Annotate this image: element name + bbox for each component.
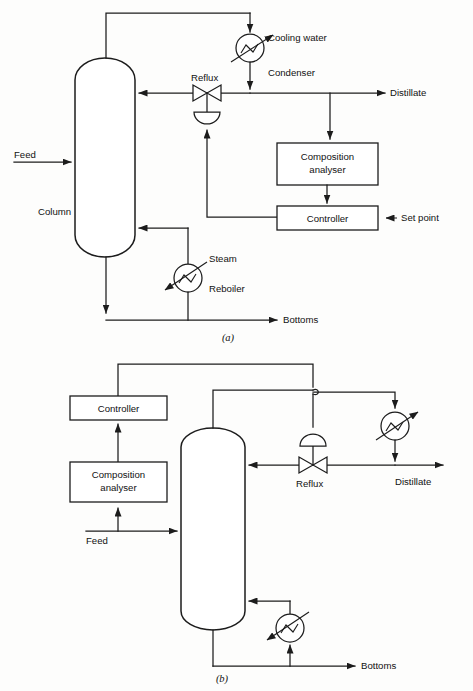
column-vessel-a — [75, 58, 135, 257]
controller-label-a: Controller — [307, 213, 349, 224]
bottoms-label-a: Bottoms — [283, 314, 318, 325]
composition-analyser-label-line2-a: analyser — [309, 164, 346, 175]
figure-sheet: Composition analyser Controller Feed Col… — [0, 0, 473, 691]
cooling-water-label-a: Cooling water — [268, 32, 327, 43]
distillate-label-b: Distillate — [395, 476, 431, 487]
reflux-valve-actuator-a — [194, 112, 220, 124]
reflux-valve-actuator-b — [300, 434, 326, 446]
reflux-label-a: Reflux — [191, 72, 218, 83]
steam-label-a: Steam — [209, 253, 237, 264]
controller-to-valve-signal-a — [207, 130, 277, 217]
panel-a-diagram: Composition analyser Controller Feed Col… — [0, 0, 473, 691]
overhead-vapour-line-b — [213, 390, 313, 428]
reflux-label-b: Reflux — [296, 478, 323, 489]
overhead-to-condenser-b — [313, 392, 395, 408]
condenser-b — [381, 412, 409, 440]
column-label-a: Column — [38, 206, 71, 217]
distillate-label-a: Distillate — [390, 87, 426, 98]
bottoms-label-b: Bottoms — [361, 660, 396, 671]
reboiler-label-a: Reboiler — [209, 283, 246, 294]
feed-label-b: Feed — [86, 535, 108, 546]
composition-analyser-label-line2-b: analyser — [100, 482, 137, 493]
condenser-a — [236, 34, 264, 62]
feed-label-a: Feed — [14, 149, 36, 160]
set-point-label-a: Set point — [401, 212, 439, 223]
panel-caption-b: (b) — [216, 673, 229, 685]
controller-output-line-b — [118, 364, 313, 396]
panel-caption-a: (a) — [222, 332, 235, 344]
composition-analyser-label-line1-b: Composition — [92, 469, 145, 480]
column-vessel-b — [181, 428, 245, 630]
condenser-label-a: Condenser — [268, 67, 316, 78]
composition-analyser-label-line1-a: Composition — [301, 151, 354, 162]
overhead-vapour-line-a — [106, 13, 250, 58]
controller-label-b: Controller — [98, 403, 140, 414]
